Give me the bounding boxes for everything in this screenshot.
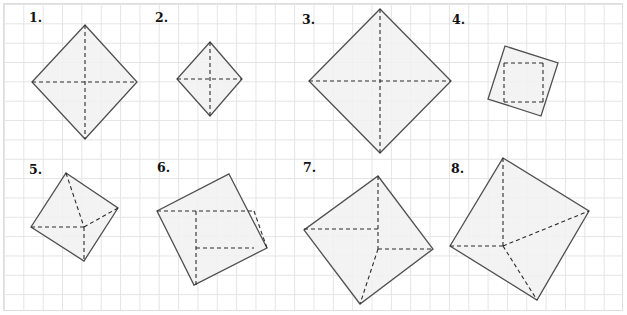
square-outline-7[interactable] — [304, 176, 433, 304]
square-outline-6[interactable] — [157, 174, 267, 285]
shape-label-5: 5. — [29, 162, 42, 177]
shape-group-8[interactable] — [450, 158, 589, 300]
shape-group-4[interactable] — [488, 46, 558, 116]
worksheet-page: 1. 2. 3. 4. 5. 6. 7. 8. — [0, 0, 627, 315]
shapes-layer — [0, 0, 627, 315]
shape-label-8: 8. — [451, 161, 464, 176]
shape-group-3[interactable] — [309, 9, 451, 153]
shape-label-3: 3. — [302, 12, 315, 27]
square-outline-8[interactable] — [450, 158, 589, 300]
shape-label-6: 6. — [157, 160, 170, 175]
shape-group-2[interactable] — [177, 42, 242, 116]
shape-label-7: 7. — [303, 160, 316, 175]
square-outline-4[interactable] — [488, 46, 558, 116]
shape-label-4: 4. — [452, 12, 465, 27]
shape-group-7[interactable] — [304, 176, 433, 304]
shape-group-5[interactable] — [31, 173, 118, 261]
square-outline-5[interactable] — [31, 173, 118, 261]
shape-label-2: 2. — [155, 10, 168, 25]
shape-label-1: 1. — [29, 10, 42, 25]
square-dashes-3 — [309, 9, 451, 153]
shape-group-1[interactable] — [32, 25, 137, 139]
shape-group-6[interactable] — [157, 174, 267, 285]
